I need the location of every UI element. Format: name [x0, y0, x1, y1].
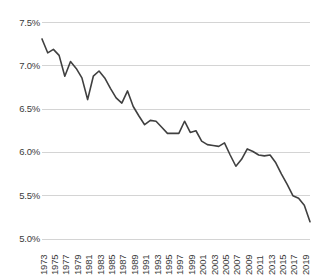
x-tick-label: 2019: [300, 255, 311, 275]
x-tick-label: 2009: [243, 255, 254, 275]
x-tick-label: 1973: [38, 255, 49, 275]
x-tick-label: 1989: [129, 255, 140, 275]
x-tick-label: 2011: [254, 255, 265, 275]
line-chart: 7.5%7.0%6.5%6.0%5.5%5.0% 197319751977197…: [0, 0, 321, 280]
x-tick-label: 1987: [117, 255, 128, 275]
x-tick-label: 1997: [174, 255, 185, 275]
x-axis-tick-labels: 1973197519771979198119831985198719891991…: [0, 0, 321, 280]
x-tick-label: 1977: [60, 255, 71, 275]
x-tick-label: 2015: [277, 255, 288, 275]
x-tick-label: 1983: [95, 255, 106, 275]
x-tick-label: 1993: [152, 255, 163, 275]
x-tick-label: 2003: [209, 255, 220, 275]
x-tick-label: 1975: [49, 255, 60, 275]
x-tick-label: 1995: [163, 255, 174, 275]
x-tick-label: 1981: [83, 255, 94, 275]
x-tick-label: 2007: [231, 255, 242, 275]
x-tick-label: 2017: [288, 255, 299, 275]
x-tick-label: 1985: [106, 255, 117, 275]
x-tick-label: 1991: [140, 255, 151, 275]
x-tick-label: 1979: [72, 255, 83, 275]
x-tick-label: 2001: [197, 255, 208, 275]
x-tick-label: 2005: [220, 255, 231, 275]
x-tick-label: 2013: [266, 255, 277, 275]
x-tick-label: 1999: [186, 255, 197, 275]
